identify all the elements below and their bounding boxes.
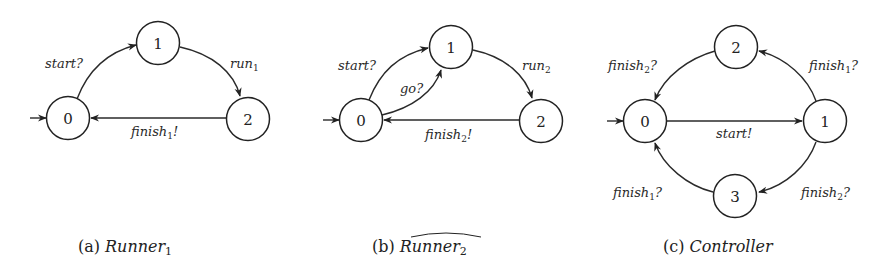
- svg-text:3: 3: [730, 188, 740, 206]
- svg-text:2: 2: [536, 113, 546, 131]
- edge-label-b-run2: run2: [522, 58, 551, 75]
- edge-label-c-finish2-top: finish2?: [607, 58, 658, 75]
- edge-label-a-start: start?: [45, 56, 84, 71]
- svg-text:0: 0: [640, 113, 650, 131]
- edge-label-c-start: start!: [716, 126, 752, 141]
- caption-b: (b)Runner2: [372, 233, 481, 258]
- diagram-runner1: start? run1 finish1! 0 1 2 (a)Runner1: [30, 22, 270, 259]
- edge-a-0-1: [77, 45, 136, 99]
- state-c-1: 1: [804, 100, 847, 143]
- edge-c-3-0: [655, 143, 713, 192]
- caption-a: (a)Runner1: [78, 237, 172, 258]
- state-b-2: 2: [520, 100, 563, 143]
- state-a-0: 0: [47, 97, 90, 140]
- svg-text:1: 1: [153, 35, 163, 53]
- svg-text:0: 0: [356, 112, 366, 130]
- svg-text:2: 2: [243, 111, 253, 129]
- edge-label-a-finish1: finish1!: [130, 124, 178, 141]
- state-a-1: 1: [137, 22, 180, 65]
- svg-text:2: 2: [731, 39, 741, 57]
- edge-label-c-finish1-bottom: finish1?: [612, 185, 663, 202]
- automata-figure: start? run1 finish1! 0 1 2 (a)Runner1: [0, 0, 892, 280]
- edge-label-b-start: start?: [338, 58, 377, 73]
- state-c-2: 2: [715, 26, 758, 69]
- caption-c: (c)Controller: [663, 237, 774, 256]
- state-c-0: 0: [624, 100, 667, 143]
- edge-label-c-finish1-top: finish1?: [808, 58, 859, 75]
- edge-label-a-run1: run1: [230, 56, 259, 73]
- state-b-0: 0: [340, 99, 383, 142]
- edge-c-1-2: [759, 51, 816, 101]
- svg-text:1: 1: [446, 39, 456, 57]
- edge-c-2-0: [655, 51, 715, 100]
- state-b-1: 1: [430, 26, 473, 69]
- edge-label-b-finish2: finish2!: [424, 127, 472, 144]
- state-c-3: 3: [714, 175, 757, 218]
- svg-text:(b)Runner2: (b)Runner2: [372, 237, 467, 258]
- edge-a-1-2: [180, 47, 240, 96]
- edge-label-c-finish2-bottom: finish2?: [800, 185, 851, 202]
- diagram-runner2-hat: start? go? run2 finish2! 0 1 2 (b)Runner…: [323, 26, 563, 259]
- svg-text:0: 0: [63, 110, 73, 128]
- diagram-controller: start! finish1? finish2? finish2? finish…: [607, 26, 859, 257]
- edge-label-b-go: go?: [400, 81, 424, 96]
- svg-text:1: 1: [820, 113, 830, 131]
- state-a-2: 2: [227, 98, 270, 141]
